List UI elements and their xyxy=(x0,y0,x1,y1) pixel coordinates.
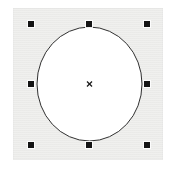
resize-handle-e[interactable] xyxy=(144,81,150,87)
canvas-viewport: Drawing Canvas xyxy=(0,0,174,171)
resize-handle-sw[interactable] xyxy=(28,142,34,148)
resize-handle-w[interactable] xyxy=(28,81,34,87)
resize-handle-n[interactable] xyxy=(86,21,92,27)
resize-handle-s[interactable] xyxy=(86,142,92,148)
resize-handle-ne[interactable] xyxy=(144,21,150,27)
resize-handle-se[interactable] xyxy=(144,142,150,148)
resize-handle-nw[interactable] xyxy=(28,21,34,27)
